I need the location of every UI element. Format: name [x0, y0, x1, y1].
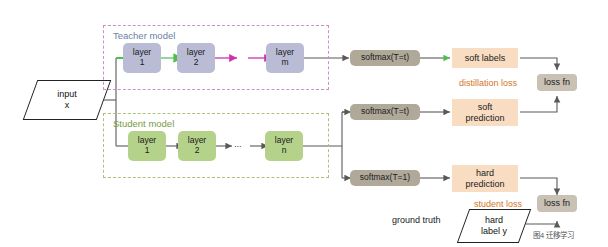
knowledge-distillation-diagram: input x Teacher model layer 1 layer 2 la… [0, 0, 608, 247]
teacher-layer-2: layer 2 [177, 43, 215, 73]
softmax-teacher: softmax(T=t) [350, 50, 420, 66]
input-node: input x [30, 80, 104, 120]
student-layers-ellipsis: ... [234, 139, 242, 149]
student-loss-label: student loss [474, 199, 522, 209]
teacher-layer-m-line2: m [281, 58, 288, 68]
student-layer-1-line2: 1 [145, 146, 150, 156]
distillation-loss-label: distillation loss [459, 78, 517, 88]
student-layer-n-line2: n [282, 146, 287, 156]
hard-prediction-line1: hard [476, 168, 494, 178]
softmax-student-soft: softmax(T=t) [350, 104, 420, 120]
figure-caption: 图4 迁移学习 [533, 229, 574, 240]
hard-label-line1: hard [485, 215, 503, 226]
teacher-layer-1-line2: 1 [140, 58, 145, 68]
teacher-layer-m: layer m [266, 43, 304, 73]
student-layer-n: layer n [265, 131, 303, 161]
hard-prediction-box: hard prediction [452, 165, 518, 192]
soft-labels-box: soft labels [452, 48, 518, 68]
soft-prediction-line2: prediction [465, 113, 504, 123]
input-label-line1: input [57, 89, 77, 100]
ground-truth-label: ground truth [392, 215, 441, 225]
teacher-layer-2-line2: 2 [194, 58, 199, 68]
loss-fn-distillation: loss fn [537, 74, 577, 91]
loss-fn-student: loss fn [537, 195, 577, 212]
softmax-student-hard: softmax(T=1) [350, 170, 420, 186]
student-layer-1: layer 1 [128, 131, 166, 161]
hard-label-line2: label y [481, 226, 507, 237]
input-label-line2: x [65, 100, 70, 111]
teacher-layer-1: layer 1 [123, 43, 161, 73]
student-model-title: Student model [113, 118, 174, 129]
hard-prediction-line2: prediction [465, 179, 504, 189]
soft-labels-label: soft labels [465, 53, 506, 63]
soft-prediction-box: soft prediction [452, 99, 518, 126]
student-layer-2: layer 2 [178, 131, 216, 161]
teacher-model-title: Teacher model [113, 30, 175, 41]
soft-prediction-line1: soft [478, 102, 493, 112]
student-layer-2-line2: 2 [195, 146, 200, 156]
hard-label-node: hard label y [463, 209, 525, 243]
